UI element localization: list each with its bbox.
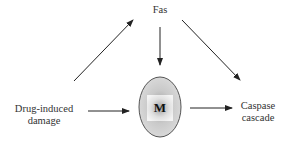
diagram-arrows	[0, 0, 288, 150]
fas-label: Fas	[153, 4, 168, 15]
caspase-label-line2: cascade	[236, 112, 280, 124]
drug-label-line1: Drug-induced	[10, 103, 78, 115]
node-caspase-cascade: Caspase cascade	[236, 100, 280, 124]
arrow-fas-to-caspase	[182, 20, 240, 80]
node-mitochondrion: M	[150, 101, 170, 115]
drug-label-line2: damage	[10, 115, 78, 127]
caspase-label-line1: Caspase	[236, 100, 280, 112]
node-drug-induced-damage: Drug-induced damage	[10, 103, 78, 127]
arrow-drug-to-fas	[74, 20, 133, 81]
node-fas: Fas	[147, 4, 173, 16]
mito-label: M	[154, 100, 166, 115]
diagram-canvas: Fas Drug-induced damage M Caspase cascad…	[0, 0, 288, 150]
